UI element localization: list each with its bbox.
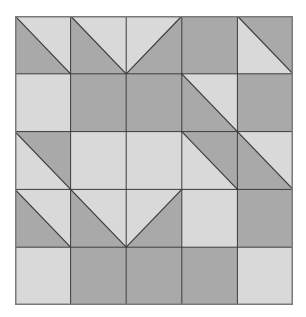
grid-cell xyxy=(237,189,293,247)
grid-cell xyxy=(71,132,127,190)
grid-cell xyxy=(71,247,127,305)
square-patch xyxy=(71,132,127,190)
grid-cell xyxy=(237,74,293,132)
grid-cell xyxy=(15,132,71,190)
grid-cell xyxy=(237,132,293,190)
square-patch xyxy=(237,189,293,247)
square-patch xyxy=(126,247,182,305)
grid-cell xyxy=(15,74,71,132)
quilt-grid xyxy=(15,16,293,305)
grid-cell xyxy=(182,189,238,247)
grid-cell xyxy=(126,16,182,74)
grid-cell xyxy=(71,74,127,132)
grid-cell xyxy=(237,247,293,305)
square-patch xyxy=(182,247,238,305)
square-patch xyxy=(15,247,71,305)
grid-cell xyxy=(182,132,238,190)
square-patch xyxy=(182,16,238,74)
grid-cell xyxy=(15,16,71,74)
square-patch xyxy=(126,74,182,132)
grid-cell xyxy=(15,247,71,305)
square-patch xyxy=(237,247,293,305)
grid-cell xyxy=(126,74,182,132)
grid-cell xyxy=(237,16,293,74)
grid-cell xyxy=(126,132,182,190)
grid-cell xyxy=(182,16,238,74)
square-patch xyxy=(182,189,238,247)
square-patch xyxy=(71,74,127,132)
grid-cell xyxy=(15,189,71,247)
grid-cell xyxy=(71,16,127,74)
square-patch xyxy=(15,74,71,132)
square-patch xyxy=(71,247,127,305)
square-patch xyxy=(126,132,182,190)
grid-cell xyxy=(126,247,182,305)
grid-cell xyxy=(182,74,238,132)
square-patch xyxy=(237,74,293,132)
grid-cell xyxy=(182,247,238,305)
grid-cell xyxy=(71,189,127,247)
grid-cell xyxy=(126,189,182,247)
